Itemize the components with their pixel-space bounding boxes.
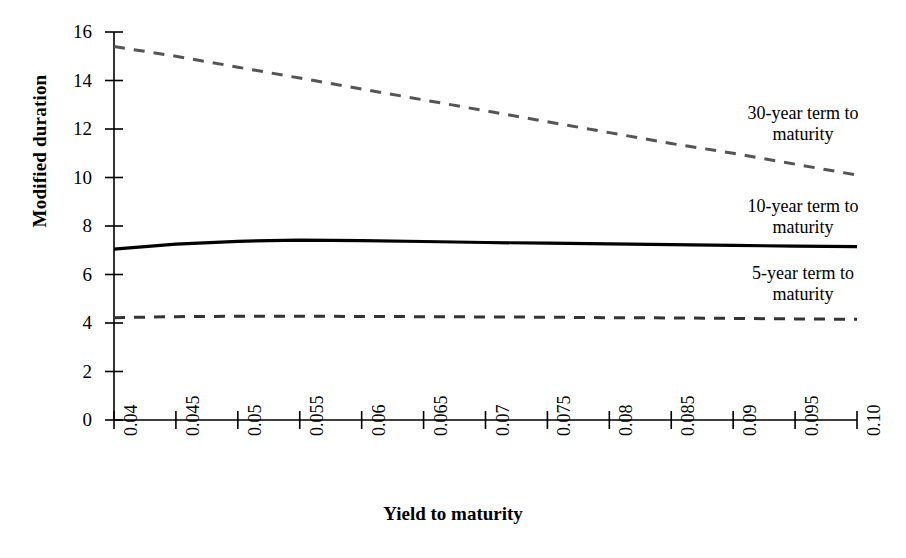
y-tick-label: 6 [52, 265, 92, 284]
annotation-5-year-line2: maturity [718, 284, 888, 305]
annotation-5-year: 5-year term to maturity [718, 263, 888, 304]
y-tick-label: 4 [52, 313, 92, 332]
y-tick-label: 8 [52, 216, 92, 235]
x-tick-label: 0.06 [370, 405, 388, 437]
x-tick-label: 0.075 [555, 396, 573, 437]
x-tick-label: 0.085 [679, 396, 697, 437]
y-axis-label: Modified duration [29, 51, 51, 251]
x-tick-label: 0.07 [494, 405, 512, 437]
annotation-30-year-line2: maturity [718, 124, 888, 145]
y-tick-label: 14 [52, 71, 92, 90]
x-tick-label: 0.045 [184, 396, 202, 437]
x-tick-label: 0.05 [246, 405, 264, 437]
series-line-2 [114, 316, 857, 319]
series-line-1 [114, 240, 857, 249]
x-tick-label: 0.095 [803, 396, 821, 437]
x-axis-label: Yield to maturity [0, 503, 906, 525]
annotation-30-year: 30-year term to maturity [718, 103, 888, 144]
x-tick-label: 0.08 [617, 405, 635, 437]
annotation-10-year-line2: maturity [718, 217, 888, 238]
y-tick-label: 10 [52, 168, 92, 187]
x-tick-label: 0.04 [122, 405, 140, 437]
y-tick-label: 16 [52, 22, 92, 41]
x-tick-label: 0.10 [865, 405, 883, 437]
annotation-10-year: 10-year term to maturity [718, 196, 888, 237]
chart-figure: Modified duration Yield to maturity 0246… [0, 0, 906, 558]
annotation-10-year-line1: 10-year term to [718, 196, 888, 217]
y-tick-label: 12 [52, 119, 92, 138]
y-tick-label: 2 [52, 362, 92, 381]
x-tick-label: 0.055 [308, 396, 326, 437]
annotation-30-year-line1: 30-year term to [718, 103, 888, 124]
y-tick-label: 0 [52, 410, 92, 429]
x-tick-label: 0.09 [741, 405, 759, 437]
x-tick-label: 0.065 [432, 396, 450, 437]
annotation-5-year-line1: 5-year term to [718, 263, 888, 284]
